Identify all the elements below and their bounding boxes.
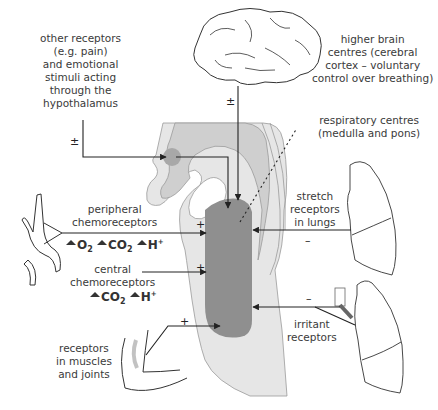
label-line: respiratory centres: [318, 114, 420, 127]
sign-peripheral: +: [196, 219, 205, 230]
label-line: through the: [40, 84, 121, 97]
central-stimuli: CO2 H+: [90, 290, 157, 306]
label-other-receptors: other receptors (e.g. pain) and emotiona…: [40, 32, 121, 110]
label-line: central: [70, 263, 155, 276]
sign-irritant: –: [306, 293, 312, 304]
aorta-carotid-illustration: [22, 194, 62, 285]
label-line: receptors: [287, 331, 337, 344]
arm-illustration: [122, 330, 188, 390]
superscript: +: [151, 290, 157, 298]
species: CO: [101, 290, 120, 304]
label-irritant-receptors: irritant receptors: [287, 318, 337, 344]
label-line: and joints: [56, 368, 112, 381]
label-line: receptors: [290, 203, 340, 216]
sign-central: +: [196, 262, 205, 273]
increase-arrow-icon: [66, 240, 76, 245]
label-line: stretch: [290, 190, 340, 203]
label-line: (e.g. pain): [40, 45, 121, 58]
peripheral-stimuli: O2 CO2 H+: [66, 238, 164, 254]
label-higher-brain: higher brain centres (cerebral cortex – …: [312, 33, 433, 85]
label-line: hypothalamus: [40, 97, 121, 110]
species: H: [148, 238, 158, 252]
lung-lower: [335, 281, 403, 393]
label-line: and emotional: [40, 58, 121, 71]
increase-arrow-icon: [90, 292, 100, 297]
label-line: control over breathing): [312, 72, 433, 85]
label-line: chemoreceptors: [70, 276, 155, 289]
sign-muscles: +: [180, 316, 189, 327]
label-line: in lungs: [290, 216, 340, 229]
subscript: 2: [87, 245, 93, 254]
label-line: centres (cerebral: [312, 46, 433, 59]
label-line: peripheral: [72, 203, 157, 216]
label-line: (medulla and pons): [318, 127, 420, 140]
label-muscles-joints: receptors in muscles and joints: [56, 342, 112, 381]
species: O: [77, 238, 87, 252]
label-line: other receptors: [40, 32, 121, 45]
increase-arrow-icon: [130, 292, 140, 297]
superscript: +: [158, 238, 164, 246]
label-line: in muscles: [56, 355, 112, 368]
sign-brain: ±: [226, 96, 235, 107]
label-line: higher brain: [312, 33, 433, 46]
brain-illustration: [194, 9, 322, 85]
increase-arrow-icon: [97, 240, 107, 245]
label-line: irritant: [287, 318, 337, 331]
species: H: [141, 290, 151, 304]
increase-arrow-icon: [137, 240, 147, 245]
lung-upper: [348, 162, 397, 275]
subscript: 2: [120, 297, 126, 306]
label-respiratory-centres: respiratory centres (medulla and pons): [318, 114, 420, 140]
label-line: cortex – voluntary: [312, 59, 433, 72]
label-central-chemoreceptors: central chemoreceptors: [70, 263, 155, 289]
arrow-hypothalamus: [83, 120, 166, 157]
label-peripheral-chemoreceptors: peripheral chemoreceptors: [72, 203, 157, 229]
sign-hypothalamus: ±: [70, 136, 79, 147]
label-stretch-receptors: stretch receptors in lungs: [290, 190, 340, 229]
species: CO: [108, 238, 127, 252]
label-line: receptors: [56, 342, 112, 355]
label-line: chemoreceptors: [72, 216, 157, 229]
respiratory-centre: [205, 198, 252, 337]
label-line: stimuli acting: [40, 71, 121, 84]
subscript: 2: [127, 245, 133, 254]
sign-stretch: –: [305, 235, 311, 246]
